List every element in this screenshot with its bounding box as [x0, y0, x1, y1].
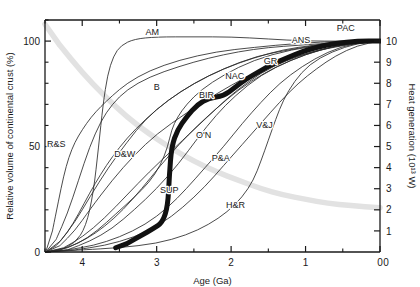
x-tick-label: 2: [228, 257, 234, 268]
y-right-tick-label: 4: [386, 162, 392, 173]
curve-label-RS: R&S: [47, 139, 66, 149]
y-right-tick-label: 7: [386, 99, 392, 110]
chart-svg: 43210050100123456789100Age (Ga)Relative …: [0, 0, 420, 287]
curve-label-SUP: SUP: [160, 185, 179, 195]
curve-label-ANS: ANS: [292, 35, 311, 45]
curve-label-NAC: NAC: [225, 71, 245, 81]
y-left-tick-label: 50: [29, 141, 41, 152]
y-left-tick-label: 100: [23, 36, 40, 47]
curve-label-VJ: V&J: [256, 120, 273, 130]
y-axis-left-title: Relative volume of continental crust (%): [4, 52, 15, 219]
curve-label-BIR: BIR: [199, 90, 215, 100]
x-tick-label: 4: [79, 257, 85, 268]
y-right-zero-label: 0: [383, 257, 389, 268]
y-right-tick-label: 3: [386, 183, 392, 194]
curve-label-PAC: PAC: [337, 23, 355, 33]
curve-label-HR: H&R: [226, 200, 246, 210]
y-right-tick-label: 8: [386, 78, 392, 89]
y-right-tick-label: 2: [386, 204, 392, 215]
curve-label-DW: D&W: [114, 149, 136, 159]
curve-label-AM: AM: [145, 27, 159, 37]
y-right-tick-label: 6: [386, 120, 392, 131]
x-tick-label: 1: [303, 257, 309, 268]
x-tick-label: 3: [154, 257, 160, 268]
y-right-tick-label: 9: [386, 57, 392, 68]
curve-label-B: B: [154, 82, 160, 92]
curve-label-PA: P&A: [212, 153, 230, 163]
y-axis-right-title: Heat generation (10¹³ W): [407, 83, 418, 188]
x-axis-title: Age (Ga): [193, 275, 232, 286]
y-right-tick-label: 10: [386, 36, 398, 47]
y-right-tick-label: 5: [386, 141, 392, 152]
curve-label-GR: GR: [264, 56, 278, 66]
y-right-tick-label: 1: [386, 226, 392, 237]
y-left-tick-label: 0: [34, 247, 40, 258]
figure-container: 43210050100123456789100Age (Ga)Relative …: [0, 0, 420, 287]
curve-label-ON: O'N: [196, 130, 211, 140]
